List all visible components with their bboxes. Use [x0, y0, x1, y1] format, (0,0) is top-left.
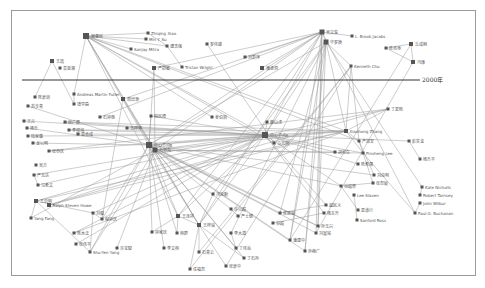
edge: [155, 150, 244, 258]
node[interactable]: 陈希孺: [357, 161, 374, 167]
node[interactable]: 张恭庆: [48, 148, 65, 154]
node[interactable]: 吴文俊: [320, 29, 339, 35]
node-square-icon: [211, 116, 214, 119]
node[interactable]: 石青云: [198, 249, 215, 255]
node[interactable]: 李文林: [163, 245, 180, 251]
node[interactable]: 胡和生: [334, 149, 351, 155]
node[interactable]: 袁亚湘: [59, 65, 76, 71]
node[interactable]: Xiaohong Zhang: [344, 129, 383, 134]
node[interactable]: 严蔚敏: [152, 65, 170, 71]
node[interactable]: 越民义: [325, 202, 342, 208]
node-square-icon: [73, 232, 76, 235]
node-square-icon: [272, 222, 275, 225]
node[interactable]: 王选: [50, 58, 64, 64]
node[interactable]: 程崇庆: [101, 216, 118, 222]
node[interactable]: Sanford Ross: [356, 218, 386, 223]
node[interactable]: 王连祥: [176, 213, 194, 219]
node[interactable]: 钱学森: [73, 101, 90, 107]
node-label: 刘应明: [377, 172, 389, 178]
node[interactable]: 张伟平: [75, 241, 92, 247]
node[interactable]: 吴方: [35, 162, 48, 168]
node-label: 谷超豪: [344, 183, 356, 189]
node[interactable]: 王元: [23, 119, 36, 124]
node[interactable]: John Wilbur: [419, 201, 447, 206]
node[interactable]: 孙继广: [304, 248, 321, 254]
node[interactable]: 许以超: [230, 206, 247, 212]
node[interactable]: 姜伯驹: [211, 114, 228, 120]
node-label: Pinsheng Lee: [366, 151, 393, 156]
node-square-icon: [323, 212, 326, 215]
node[interactable]: 马希文: [37, 182, 54, 188]
node[interactable]: 严士健: [237, 213, 254, 219]
node[interactable]: 张尧庭: [372, 180, 389, 186]
node[interactable]: Kate Nicholls: [421, 185, 451, 190]
node[interactable]: 陈省身: [385, 45, 402, 51]
edge: [155, 150, 335, 152]
node-square-icon: [47, 203, 51, 207]
node[interactable]: 钟家庆: [151, 229, 168, 235]
node[interactable]: Lee Slaven: [353, 193, 380, 198]
edge: [305, 32, 322, 251]
node[interactable]: 王梓坤: [126, 125, 143, 131]
node[interactable]: 刘宣铭: [315, 230, 332, 236]
node[interactable]: 杨东升: [323, 210, 340, 216]
node[interactable]: 张景中: [225, 263, 242, 269]
node[interactable]: 冯康: [411, 59, 425, 65]
node[interactable]: 丁石孙: [243, 255, 260, 261]
node[interactable]: Kenneth Chu: [350, 64, 381, 69]
node[interactable]: 谷超: [272, 220, 285, 226]
node[interactable]: 苏步青: [27, 103, 44, 109]
node[interactable]: 丘成桐: [409, 41, 427, 47]
node-label: 中心节点A: [270, 132, 289, 138]
node[interactable]: 严志达: [33, 172, 50, 178]
node[interactable]: 王启明: [34, 198, 52, 204]
node[interactable]: Pinsheng Lee: [362, 151, 394, 156]
node[interactable]: Andreas Martin Fuller: [73, 92, 120, 97]
node[interactable]: 中心节点A: [262, 132, 289, 139]
node[interactable]: 陈木法: [73, 230, 90, 236]
node[interactable]: Yang Fang: [30, 216, 55, 221]
node-label: Lee Slaven: [357, 193, 379, 198]
node[interactable]: Paul G. Buchanan: [414, 211, 454, 216]
node[interactable]: Min Y. Su: [145, 37, 168, 42]
node[interactable]: 程民德: [150, 113, 167, 119]
node[interactable]: 廖山涛: [266, 119, 283, 125]
node[interactable]: Ralph Steven Howe: [47, 203, 92, 208]
node-square-icon: [243, 257, 246, 260]
node[interactable]: 龙以明: [32, 140, 49, 146]
node[interactable]: 刘爱萍: [244, 54, 261, 60]
node-square-icon: [387, 108, 390, 111]
node[interactable]: 刘徽: [92, 210, 105, 216]
node-square-icon: [358, 140, 361, 143]
node[interactable]: Robert Tarnsey: [419, 193, 454, 198]
node[interactable]: Sanjay Mitra: [130, 47, 160, 52]
node[interactable]: 陆家羲: [27, 133, 44, 139]
node[interactable]: Tristan Wright: [181, 65, 214, 70]
node[interactable]: 丁夏畦: [387, 106, 404, 112]
node[interactable]: 王梓良: [197, 222, 215, 228]
node-square-icon: [325, 204, 328, 207]
node[interactable]: 潘承洞: [260, 65, 278, 71]
node-square-icon: [212, 193, 215, 196]
node-square-icon: [356, 219, 359, 222]
node[interactable]: 李大潜: [230, 230, 247, 236]
node[interactable]: 任福尧: [189, 266, 206, 272]
node[interactable]: 谢惠民: [83, 33, 103, 40]
node-label: 孙玉兴: [321, 223, 333, 229]
node[interactable]: 刘应明: [373, 172, 390, 178]
node[interactable]: 周培源: [121, 96, 139, 102]
node[interactable]: Shu-Yen Yang: [89, 250, 120, 255]
node-label: 张景中: [229, 263, 241, 269]
node-square-icon: [414, 212, 417, 215]
node-label: 谭浩强: [170, 43, 182, 49]
node[interactable]: 华罗庚: [324, 39, 343, 45]
node[interactable]: Zhiqing Xiao: [147, 31, 177, 36]
node[interactable]: 杨乐: [26, 125, 39, 131]
node[interactable]: 夏道行: [357, 207, 374, 213]
node-square-icon: [121, 97, 125, 101]
node[interactable]: L. Brook Jacobs: [351, 34, 386, 39]
node-label: 姜伯驹: [215, 114, 227, 120]
node[interactable]: 杨乐平: [419, 156, 436, 162]
node-square-icon: [419, 194, 422, 197]
node[interactable]: 石钟慈: [99, 114, 116, 120]
